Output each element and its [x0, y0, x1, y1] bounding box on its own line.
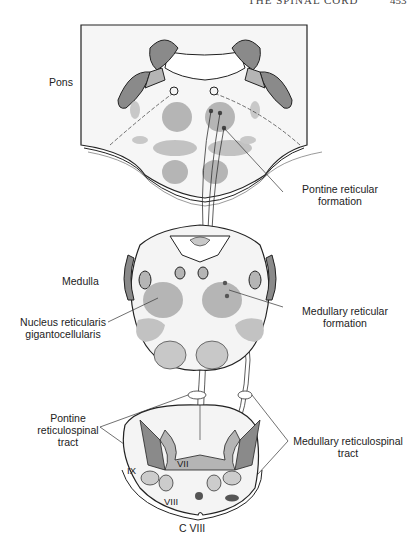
- label-c-viii: C VIII: [179, 522, 205, 534]
- spinal-cord-section: [122, 405, 262, 520]
- label-lamina-vii: VII: [177, 458, 189, 470]
- medulla-section: [108, 225, 283, 370]
- label-lamina-viii: VIII: [164, 496, 178, 508]
- label-medulla: Medulla: [62, 275, 99, 287]
- pontine-tract-marker: [188, 391, 206, 399]
- pons-section: [81, 25, 322, 206]
- label-lamina-ix: IX: [127, 465, 136, 477]
- medullary-tract-marker: [238, 391, 252, 399]
- label-medullary-reticular-formation: Medullary reticular formation: [285, 305, 405, 329]
- label-pons: Pons: [49, 76, 73, 88]
- label-pontine-reticular-formation: Pontine reticular formation: [280, 183, 400, 207]
- label-nucleus-gigantocellularis: Nucleus reticularis gigantocellularis: [14, 316, 112, 340]
- label-pontine-reticulospinal-tract: Pontine reticulospinal tract: [36, 412, 100, 448]
- label-medullary-reticulospinal-tract: Medullary reticulospinal tract: [286, 435, 410, 459]
